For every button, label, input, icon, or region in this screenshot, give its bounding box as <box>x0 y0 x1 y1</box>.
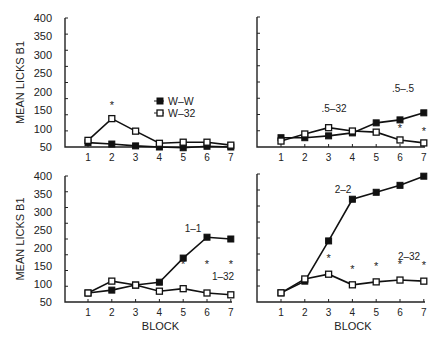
data-point <box>133 143 139 149</box>
data-point <box>133 128 139 134</box>
data-point <box>326 125 332 131</box>
data-point <box>397 137 403 143</box>
panel-top-right: 1234567**.5–32.5–.5 <box>257 17 427 163</box>
series-label: 1–1 <box>185 223 202 234</box>
y-tick-label: 150 <box>34 104 52 116</box>
x-tick-label: 2 <box>302 307 308 318</box>
significance-star: * <box>374 260 379 272</box>
y-tick-label: 200 <box>34 242 52 254</box>
legend-label-filled: W–W <box>168 95 194 107</box>
data-point <box>85 290 91 296</box>
x-axis-label: BLOCK <box>334 320 372 332</box>
data-point <box>373 279 379 285</box>
significance-star: * <box>398 122 403 134</box>
x-tick-label: 4 <box>157 152 163 163</box>
legend-filled-square-icon <box>157 98 163 104</box>
significance-star: * <box>110 99 115 111</box>
data-point <box>326 133 332 139</box>
data-point <box>349 196 355 202</box>
data-point <box>397 182 403 188</box>
series-label: 2–32 <box>398 251 421 262</box>
y-tick-label: 200 <box>34 86 52 98</box>
y-tick-label: 350 <box>34 188 52 200</box>
x-tick-label: 7 <box>421 152 427 163</box>
data-point <box>349 128 355 134</box>
series-label: .5–32 <box>321 103 346 114</box>
x-tick-label: 3 <box>326 152 332 163</box>
data-point <box>278 138 284 144</box>
x-tick-label: 4 <box>350 152 356 163</box>
data-point <box>302 276 308 282</box>
data-point <box>421 140 427 146</box>
x-tick-label: 6 <box>397 307 403 318</box>
x-tick-label: 3 <box>326 307 332 318</box>
panel-bottom-right: 1234567BLOCK*****2–22–32 <box>257 173 427 332</box>
series-label: .5–.5 <box>392 83 415 94</box>
legend: W–WW–32 <box>154 95 196 119</box>
x-tick-label: 3 <box>133 152 139 163</box>
y-tick-label: 100 <box>34 278 52 290</box>
x-tick-label: 6 <box>397 152 403 163</box>
x-tick-label: 1 <box>278 152 284 163</box>
y-tick-label: 400 <box>34 12 52 24</box>
y-tick-label: 150 <box>34 260 52 272</box>
data-point <box>109 278 115 284</box>
x-tick-label: 5 <box>180 152 186 163</box>
series-label: 2–2 <box>335 184 352 195</box>
series-label: 1–32 <box>212 271 235 282</box>
x-tick-label: 6 <box>204 152 210 163</box>
x-tick-label: 7 <box>228 152 234 163</box>
significance-star: * <box>422 259 427 271</box>
x-tick-label: 2 <box>109 307 115 318</box>
data-point <box>109 287 115 293</box>
significance-star: * <box>326 252 331 264</box>
y-axis-label: MEAN LICKS B1 <box>14 41 26 124</box>
data-point <box>326 238 332 244</box>
legend-open-square-icon <box>157 110 163 116</box>
data-point <box>180 139 186 145</box>
y-tick-label: 100 <box>34 123 52 135</box>
x-tick-label: 1 <box>278 307 284 318</box>
data-point <box>302 131 308 137</box>
data-point <box>228 292 234 298</box>
data-point <box>397 277 403 283</box>
data-point <box>326 271 332 277</box>
significance-star: * <box>205 258 210 270</box>
y-tick-label: 50 <box>40 141 52 153</box>
data-point <box>156 279 162 285</box>
x-tick-label: 3 <box>133 307 139 318</box>
panel-top-left: 40035030025020015010050MEAN LICKS B11234… <box>14 12 234 163</box>
x-axis-label: BLOCK <box>142 320 180 332</box>
x-tick-label: 7 <box>228 307 234 318</box>
x-tick-label: 5 <box>373 152 379 163</box>
data-point <box>373 189 379 195</box>
data-point <box>228 142 234 148</box>
significance-star: * <box>181 258 186 270</box>
data-point <box>109 141 115 147</box>
significance-star: * <box>350 263 355 275</box>
y-tick-label: 300 <box>34 49 52 61</box>
data-point <box>349 282 355 288</box>
y-tick-label: 50 <box>40 296 52 308</box>
data-point <box>180 286 186 292</box>
legend-label-open: W–32 <box>168 107 196 119</box>
data-point <box>156 288 162 294</box>
data-point <box>109 116 115 122</box>
x-tick-label: 5 <box>373 307 379 318</box>
y-tick-label: 350 <box>34 30 52 42</box>
axis-lines <box>65 18 232 147</box>
x-tick-label: 6 <box>204 307 210 318</box>
data-point <box>373 120 379 126</box>
x-tick-label: 1 <box>85 307 91 318</box>
data-point <box>204 139 210 145</box>
data-point <box>204 234 210 240</box>
y-tick-label: 400 <box>34 170 52 182</box>
x-tick-label: 4 <box>350 307 356 318</box>
figure: 40035030025020015010050MEAN LICKS B11234… <box>0 0 439 341</box>
y-axis-label: MEAN LICKS B1 <box>14 197 26 280</box>
y-tick-label: 250 <box>34 67 52 79</box>
panel-bottom-left: 40035030025020015010050MEAN LICKS B11234… <box>14 170 235 332</box>
data-point <box>133 282 139 288</box>
data-point <box>156 140 162 146</box>
data-point <box>228 236 234 242</box>
